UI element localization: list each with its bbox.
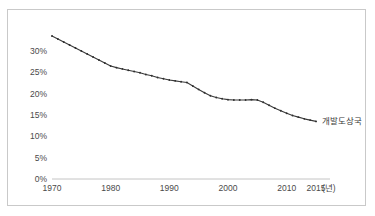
data-point: [256, 99, 258, 101]
data-point: [280, 110, 282, 112]
data-point: [51, 35, 53, 37]
data-point: [168, 79, 170, 81]
data-point: [215, 97, 217, 99]
y-tick-label-5pct-spacer: 5%: [35, 153, 48, 163]
data-point: [92, 56, 94, 58]
data-point: [80, 50, 82, 52]
data-point: [315, 120, 317, 122]
data-point: [151, 75, 153, 77]
x-tick-label: 1990: [160, 183, 179, 193]
data-point: [157, 77, 159, 79]
x-tick-label: 2010: [277, 183, 296, 193]
data-point: [309, 119, 311, 121]
data-point: [104, 62, 106, 64]
y-tick-label: 20%: [30, 89, 47, 99]
y-tick-label: 15%: [30, 110, 47, 120]
data-point: [297, 116, 299, 118]
data-point: [116, 67, 118, 69]
data-point: [69, 44, 71, 46]
data-point: [192, 85, 194, 87]
data-point: [262, 101, 264, 103]
data-point: [133, 71, 135, 73]
data-point: [209, 95, 211, 97]
data-point: [186, 82, 188, 84]
data-point: [274, 107, 276, 109]
data-point: [139, 72, 141, 74]
y-tick-label: 30%: [30, 46, 47, 56]
data-point: [145, 74, 147, 76]
data-point: [98, 59, 100, 61]
data-point: [233, 99, 235, 101]
series-line-developing-countries: [52, 36, 316, 121]
data-point: [110, 65, 112, 67]
data-point: [227, 99, 229, 101]
data-point: [86, 53, 88, 55]
data-point: [221, 98, 223, 100]
y-tick-label: 10%: [30, 131, 47, 141]
data-point: [174, 80, 176, 82]
series-label-developing-countries: 개발도상국: [322, 116, 362, 126]
data-point: [303, 118, 305, 120]
data-point: [163, 78, 165, 80]
data-point: [180, 81, 182, 83]
x-axis-unit-label: (년): [322, 183, 336, 193]
data-point: [245, 99, 247, 101]
y-tick-label: 25%: [30, 67, 47, 77]
data-point: [121, 68, 123, 70]
data-point: [251, 99, 253, 101]
data-point: [204, 92, 206, 94]
line-chart: 30% 25% 20% 15% 10% 5% 0% 10% 5% 1970 19…: [0, 0, 375, 216]
x-axis-tick-labels: 1970 1980 1990 2000 2010 2015 (년): [43, 183, 336, 193]
data-point: [63, 41, 65, 43]
chart-figure: 30% 25% 20% 15% 10% 5% 0% 10% 5% 1970 19…: [0, 0, 375, 216]
y-axis-tick-labels: 30% 25% 20% 15% 10% 5% 0%: [30, 46, 47, 184]
data-point: [57, 38, 59, 40]
data-point: [268, 104, 270, 106]
data-point: [127, 69, 129, 71]
x-tick-label: 1970: [43, 183, 62, 193]
data-point: [292, 114, 294, 116]
data-point: [286, 112, 288, 114]
data-point: [75, 47, 77, 49]
x-tick-label: 1980: [101, 183, 120, 193]
data-point: [198, 88, 200, 90]
data-point: [239, 99, 241, 101]
x-tick-label: 2000: [219, 183, 238, 193]
